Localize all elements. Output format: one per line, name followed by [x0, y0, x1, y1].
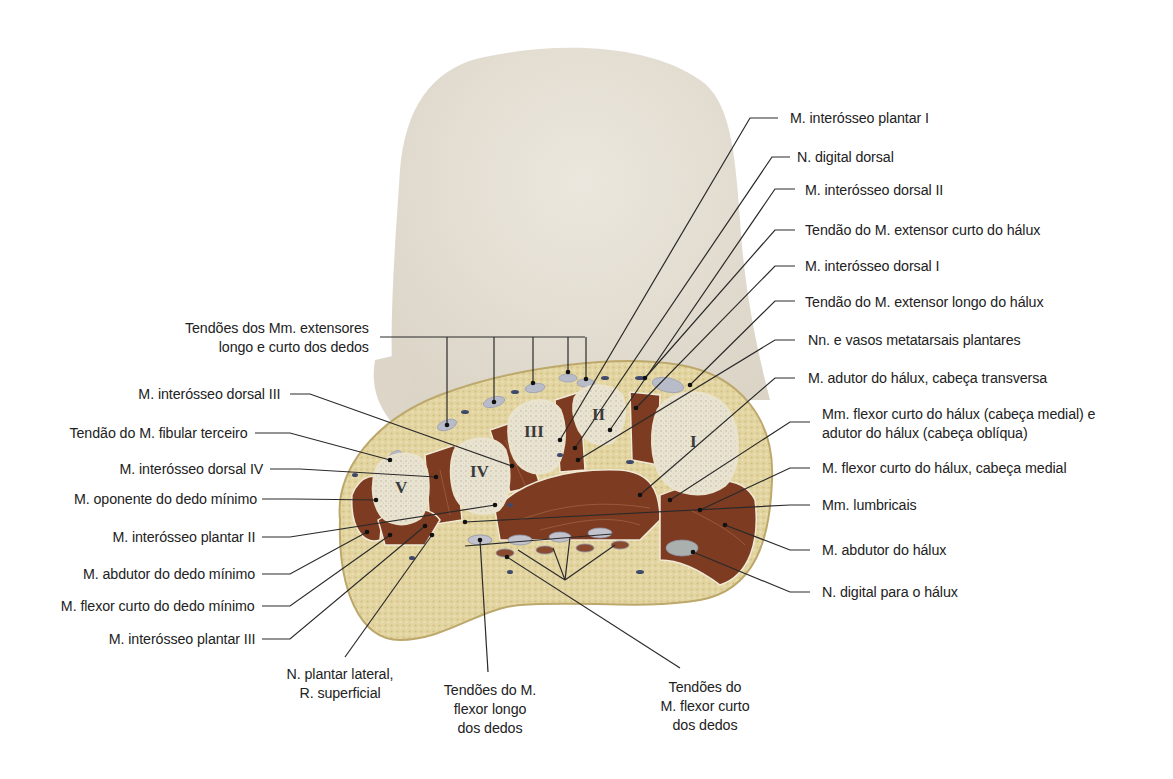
bone-numeral-v: V — [395, 478, 407, 498]
label-interosseo-dorsal-4: M. interósseo dorsal IV — [119, 459, 263, 478]
label-line-1: Tendões dos Mm. extensores — [185, 318, 369, 337]
label-interosseo-plantar-3: M. interósseo plantar III — [108, 629, 255, 648]
label-line-2: flexor longo — [426, 699, 555, 718]
label-line-1: Tendões do — [636, 677, 774, 696]
label-interosseo-dorsal-2: M. interósseo dorsal II — [805, 180, 943, 199]
label-interosseo-dorsal-3: M. interósseo dorsal III — [138, 384, 280, 403]
bone-numeral-iii: III — [524, 422, 544, 442]
label-plantar-lateral: N. plantar lateral, R. superficial — [271, 664, 409, 702]
bone-numeral-iv: IV — [470, 462, 489, 482]
label-flexor-longo-dedos: Tendões do M. flexor longo dos dedos — [426, 680, 555, 737]
label-line-1: Tendões do M. — [426, 680, 555, 699]
label-extensor-curto-halux: Tendão do M. extensor curto do hálux — [805, 220, 1040, 239]
label-line-2: R. superficial — [271, 683, 409, 702]
label-flexor-curto-minimo: M. flexor curto do dedo mínimo — [61, 596, 255, 615]
label-digital-dorsal: N. digital dorsal — [797, 147, 894, 166]
label-metatarsais-plantares: Nn. e vasos metatarsais plantares — [808, 330, 1021, 349]
label-adutor-transversa: M. adutor do hálux, cabeça transversa — [808, 368, 1047, 387]
label-digital-halux: N. digital para o hálux — [822, 582, 958, 601]
label-oponente-minimo: M. oponente do dedo mínimo — [74, 489, 257, 508]
bone-numeral-ii: II — [592, 405, 605, 425]
label-lumbricais: Mm. lumbricais — [822, 495, 917, 514]
label-interosseo-dorsal-1: M. interósseo dorsal I — [805, 256, 939, 275]
label-interosseo-plantar-1: M. interósseo plantar I — [790, 108, 929, 127]
label-line-2: M. flexor curto — [636, 696, 774, 715]
label-abdutor-minimo: M. abdutor do dedo mínimo — [83, 564, 255, 583]
label-fibular-terceiro: Tendão do M. fibular terceiro — [70, 423, 248, 442]
label-line-2: longo e curto dos dedos — [185, 337, 369, 356]
anatomy-figure: V IV III II I M. interósseo plantar I N.… — [0, 0, 1173, 779]
label-abdutor-halux: M. abdutor do hálux — [822, 540, 946, 559]
label-line-3: dos dedos — [426, 718, 555, 737]
label-extensor-longo-halux: Tendão do M. extensor longo do hálux — [805, 292, 1043, 311]
label-extensores-dedos: Tendões dos Mm. extensores longo e curto… — [185, 318, 369, 356]
label-line-1: N. plantar lateral, — [271, 664, 409, 683]
label-line-1: Mm. flexor curto do hálux (cabeça medial… — [822, 404, 1095, 423]
bone-numeral-i: I — [690, 432, 697, 452]
label-line-3: dos dedos — [636, 715, 774, 734]
label-line-2: adutor do hálux (cabeça oblíqua) — [822, 423, 1095, 442]
label-interosseo-plantar-2: M. interósseo plantar II — [112, 527, 255, 546]
label-flexor-curto-medial: M. flexor curto do hálux, cabeça medial — [822, 458, 1067, 477]
label-flexor-adutor-obliqua: Mm. flexor curto do hálux (cabeça medial… — [822, 404, 1095, 442]
label-flexor-curto-dedos: Tendões do M. flexor curto dos dedos — [636, 677, 774, 734]
